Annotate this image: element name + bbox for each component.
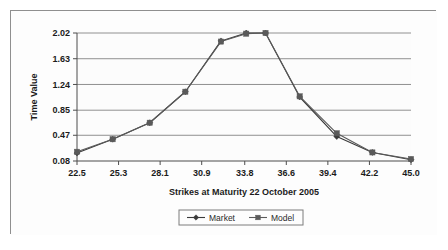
y-axis-tick-label: 1.63 (52, 54, 70, 64)
y-axis-tick-label: 0.08 (52, 156, 70, 166)
chart-plot: 22.525.328.130.933.836.639.442.245.0 0.0… (11, 11, 437, 235)
data-point-marker-square (263, 30, 268, 35)
legend-label-market: Market (209, 213, 236, 223)
x-axis-tick-label: 30.9 (193, 168, 211, 178)
x-axis-tick-label: 28.1 (151, 168, 169, 178)
x-axis-tick-label: 39.4 (319, 168, 337, 178)
data-point-marker-square (110, 137, 115, 142)
y-axis-tick-label: 0.85 (52, 105, 70, 115)
plot-area-background (77, 33, 411, 161)
x-axis-tick-label: 42.2 (361, 168, 379, 178)
data-point-marker-square (334, 131, 339, 136)
y-axis-title: Time Value (29, 74, 39, 121)
data-point-marker-square (74, 149, 79, 154)
x-axis-tick-label: 36.6 (278, 168, 296, 178)
data-point-marker-square (297, 94, 302, 99)
data-point-marker-square (147, 120, 152, 125)
data-point-marker-square (370, 150, 375, 155)
data-point-marker-square (408, 156, 413, 161)
x-axis-tick-label: 22.5 (68, 168, 86, 178)
data-point-marker-square (183, 89, 188, 94)
y-axis-tick-label: 2.02 (52, 28, 70, 38)
x-axis-tick-labels: 22.525.328.130.933.836.639.442.245.0 (68, 168, 420, 178)
figure-frame: 22.525.328.130.933.836.639.442.245.0 0.0… (10, 10, 436, 234)
x-axis-tick-label: 45.0 (402, 168, 420, 178)
data-point-marker-square (218, 39, 223, 44)
x-axis-tick-label: 33.8 (236, 168, 254, 178)
data-point-marker-square (244, 31, 249, 36)
y-axis-tick-label: 1.24 (52, 80, 70, 90)
legend: MarketModel (179, 210, 303, 225)
legend-label-model: Model (271, 213, 294, 223)
data-point-marker-square (256, 215, 261, 220)
x-axis-title: Strikes at Maturity 22 October 2005 (169, 187, 319, 197)
x-axis-tick-label: 25.3 (110, 168, 128, 178)
y-axis-tick-label: 0.47 (52, 130, 70, 140)
